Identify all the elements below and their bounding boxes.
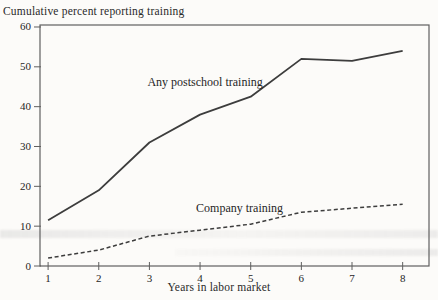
plot-frame — [40, 25, 429, 266]
y-tick-label: 50 — [20, 60, 32, 72]
y-tick-label: 20 — [20, 180, 32, 192]
chart-canvas: 010203040506012345678Any postschool trai… — [0, 0, 438, 300]
y-tick-label: 30 — [20, 140, 32, 152]
series-label-any-postschool-training: Any postschool training — [147, 75, 262, 89]
series-label-company-training: Company training — [196, 201, 283, 215]
x-axis-title: Years in labor market — [0, 281, 438, 293]
y-tick-label: 40 — [20, 100, 32, 112]
y-tick-label: 10 — [20, 220, 32, 232]
y-tick-label: 60 — [20, 20, 32, 32]
training-chart-figure: Cumulative percent reporting training 01… — [0, 0, 438, 300]
y-tick-label: 0 — [26, 260, 32, 272]
